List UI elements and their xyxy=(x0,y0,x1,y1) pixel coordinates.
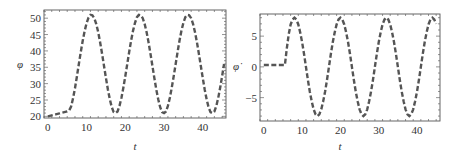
x-axis-label: t xyxy=(133,140,137,152)
y-tick-labels: −505 xyxy=(245,30,257,103)
y-tick-labels: 20253035404550 xyxy=(30,12,42,122)
figure: 010203040 20253035404550 t φ 010203040 −… xyxy=(0,0,457,158)
chart-phi: 010203040 20253035404550 t φ xyxy=(17,10,226,152)
plot-frame xyxy=(260,14,440,121)
x-tick-label: 30 xyxy=(159,121,171,133)
y-tick-label: 30 xyxy=(30,78,42,90)
x-tick-label: 40 xyxy=(412,124,424,136)
series-line-phi-dot xyxy=(264,18,436,116)
y-axis-label: φ̇ xyxy=(233,60,243,72)
x-tick-labels: 010203040 xyxy=(261,124,423,136)
y-tick-label: 0 xyxy=(252,61,258,73)
y-tick-label: 5 xyxy=(252,30,258,42)
x-tick-label: 30 xyxy=(373,124,385,136)
chart-phi-dot: 010203040 −505 t φ̇ xyxy=(233,14,440,152)
x-ticks xyxy=(44,10,222,118)
series-line-phi xyxy=(48,15,224,116)
x-ticks xyxy=(260,14,436,121)
y-tick-label: 35 xyxy=(30,61,42,73)
y-axis-label: φ xyxy=(17,58,23,70)
y-tick-label: 50 xyxy=(30,12,42,24)
x-tick-label: 20 xyxy=(120,121,132,133)
x-tick-label: 0 xyxy=(261,124,267,136)
y-tick-label: 25 xyxy=(30,94,42,106)
x-tick-label: 0 xyxy=(45,121,51,133)
y-tick-label: 20 xyxy=(30,110,42,122)
y-tick-label: −5 xyxy=(245,92,257,104)
x-tick-label: 20 xyxy=(335,124,347,136)
x-tick-label: 10 xyxy=(81,121,93,133)
y-ticks xyxy=(260,18,440,116)
x-tick-label: 40 xyxy=(197,121,209,133)
y-tick-label: 45 xyxy=(30,29,42,41)
x-tick-labels: 010203040 xyxy=(45,121,209,133)
x-axis-label: t xyxy=(338,140,342,152)
x-tick-label: 10 xyxy=(297,124,309,136)
y-tick-label: 40 xyxy=(30,45,42,57)
